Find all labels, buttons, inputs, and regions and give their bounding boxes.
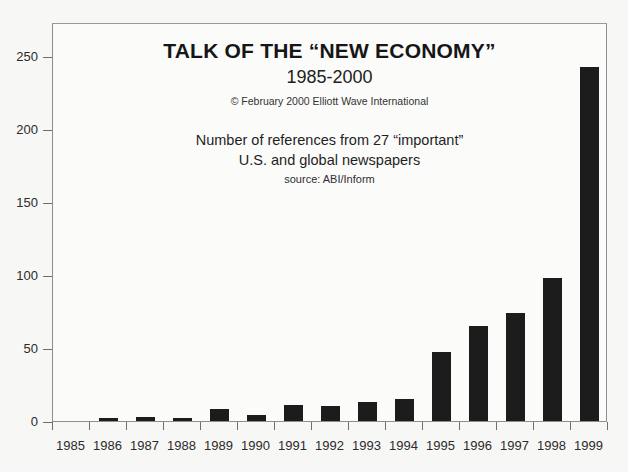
y-axis-tick-label: 100	[16, 267, 38, 285]
bar	[543, 278, 562, 421]
x-axis-tick-mark	[200, 422, 201, 430]
x-axis-tick-mark	[237, 422, 238, 430]
x-axis-tick-mark	[570, 422, 571, 430]
y-axis-tick-label: 150	[16, 194, 38, 212]
y-axis-tick-mark	[43, 203, 52, 204]
x-axis-tick-label: 1994	[389, 438, 418, 453]
bar	[173, 418, 192, 421]
bar	[580, 67, 599, 421]
bar	[469, 326, 488, 421]
bar	[395, 399, 414, 421]
y-axis-tick-label: 250	[16, 48, 38, 66]
x-axis-tick-mark	[422, 422, 423, 430]
bar-series	[53, 24, 606, 421]
x-axis-tick-mark	[348, 422, 349, 430]
y-axis-tick-mark	[43, 57, 52, 58]
x-axis-tick-label: 1987	[130, 438, 159, 453]
x-axis-tick-mark	[89, 422, 90, 430]
bar	[432, 352, 451, 421]
x-axis-tick-label: 1998	[537, 438, 566, 453]
y-axis-tick-mark	[43, 422, 52, 423]
x-axis-tick-label: 1996	[463, 438, 492, 453]
bar	[247, 415, 266, 421]
y-axis-tick-label: 200	[16, 121, 38, 139]
x-axis: 1985198619871988198919901991199219931994…	[52, 422, 607, 470]
x-axis-tick-label: 1995	[426, 438, 455, 453]
y-axis-tick-mark	[43, 276, 52, 277]
y-axis-tick-label: 0	[31, 413, 38, 431]
y-axis-tick-label: 50	[24, 340, 38, 358]
plot-area	[52, 23, 607, 422]
bar	[321, 406, 340, 421]
bar	[284, 405, 303, 421]
x-axis-tick-label: 1999	[574, 438, 603, 453]
x-axis-tick-mark	[274, 422, 275, 430]
x-axis-tick-label: 1993	[352, 438, 381, 453]
x-axis-tick-label: 1986	[93, 438, 122, 453]
x-axis-tick-label: 1985	[56, 438, 85, 453]
chart-screenshot: 050100150200250 198519861987198819891990…	[0, 0, 628, 472]
x-axis-tick-label: 1992	[315, 438, 344, 453]
y-axis-tick-mark	[43, 349, 52, 350]
bar	[136, 417, 155, 421]
x-axis-tick-mark	[52, 422, 53, 430]
x-axis-tick-label: 1989	[204, 438, 233, 453]
x-axis-tick-label: 1990	[241, 438, 270, 453]
y-axis-tick-mark	[43, 130, 52, 131]
x-axis-tick-mark	[385, 422, 386, 430]
bar	[358, 402, 377, 421]
x-axis-tick-label: 1988	[167, 438, 196, 453]
x-axis-tick-mark	[607, 422, 608, 430]
x-axis-tick-label: 1997	[500, 438, 529, 453]
x-axis-tick-label: 1991	[278, 438, 307, 453]
bar	[99, 418, 118, 421]
bar	[210, 409, 229, 421]
x-axis-tick-mark	[533, 422, 534, 430]
x-axis-tick-mark	[496, 422, 497, 430]
x-axis-tick-mark	[311, 422, 312, 430]
bar	[506, 313, 525, 421]
x-axis-tick-mark	[126, 422, 127, 430]
x-axis-tick-mark	[163, 422, 164, 430]
x-axis-tick-mark	[459, 422, 460, 430]
